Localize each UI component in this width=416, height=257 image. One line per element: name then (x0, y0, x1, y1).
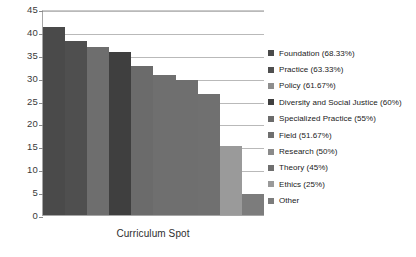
legend-item[interactable]: Policy (61.67%) (268, 78, 416, 94)
bar-chart: 454035302520151050 Curriculum Spot Found… (0, 0, 416, 257)
bar (198, 94, 220, 215)
y-axis-tick-label: 15 (12, 143, 38, 153)
legend-item[interactable]: Other (268, 193, 416, 209)
legend-item[interactable]: Specialized Practice (55%) (268, 111, 416, 127)
legend-item[interactable]: Theory (45%) (268, 160, 416, 176)
y-axis: 454035302520151050 (12, 10, 38, 216)
legend-item[interactable]: Practice (63.33%) (268, 61, 416, 77)
y-axis-tick-mark (39, 217, 43, 218)
legend-item[interactable]: Research (50%) (268, 143, 416, 159)
y-axis-tick-label: 45 (12, 5, 38, 15)
y-axis-tick-label: 20 (12, 120, 38, 130)
y-axis-tick-label: 0 (12, 211, 38, 221)
legend-swatch-icon (268, 132, 274, 138)
y-axis-tick-label: 25 (12, 97, 38, 107)
bar (109, 52, 131, 215)
legend-swatch-icon (268, 116, 274, 122)
legend-swatch-icon (268, 99, 274, 105)
legend-item-label: Diversity and Social Justice (60%) (279, 98, 402, 107)
legend-item[interactable]: Field (51.67%) (268, 127, 416, 143)
plot-area: 454035302520151050 Curriculum Spot (0, 0, 266, 232)
bar (153, 75, 175, 215)
legend-item-label: Field (51.67%) (279, 131, 332, 140)
legend-item[interactable]: Ethics (25%) (268, 176, 416, 192)
bar-series (43, 11, 264, 215)
legend-item-label: Research (50%) (279, 147, 338, 156)
y-axis-tick-label: 10 (12, 165, 38, 175)
legend-item[interactable]: Diversity and Social Justice (60%) (268, 94, 416, 110)
legend-swatch-icon (268, 181, 274, 187)
bar (220, 146, 242, 215)
legend-item-label: Policy (61.67%) (279, 81, 336, 90)
legend-item[interactable]: Foundation (68.33%) (268, 45, 416, 61)
legend-item-label: Practice (63.33%) (279, 65, 343, 74)
y-axis-tick-label: 40 (12, 28, 38, 38)
legend-swatch-icon (268, 83, 274, 89)
legend-item-label: Other (279, 196, 299, 205)
legend-item-label: Specialized Practice (55%) (279, 114, 376, 123)
legend-swatch-icon (268, 149, 274, 155)
legend-swatch-icon (268, 165, 274, 171)
legend-item-label: Foundation (68.33%) (279, 49, 355, 58)
plot-box (42, 10, 264, 216)
bar (176, 80, 198, 215)
bar (131, 66, 153, 215)
legend-swatch-icon (268, 198, 274, 204)
x-axis-title: Curriculum Spot (42, 228, 264, 239)
y-axis-tick-label: 35 (12, 51, 38, 61)
legend-item-label: Theory (45%) (279, 163, 328, 172)
bar (242, 194, 264, 215)
bar (87, 47, 109, 215)
bar (65, 41, 87, 215)
legend-swatch-icon (268, 67, 274, 73)
legend-swatch-icon (268, 50, 274, 56)
y-axis-tick-label: 30 (12, 74, 38, 84)
y-axis-tick-label: 5 (12, 188, 38, 198)
bar (43, 27, 65, 215)
legend-item-label: Ethics (25%) (279, 180, 325, 189)
chart-legend: Foundation (68.33%)Practice (63.33%)Poli… (268, 45, 416, 209)
